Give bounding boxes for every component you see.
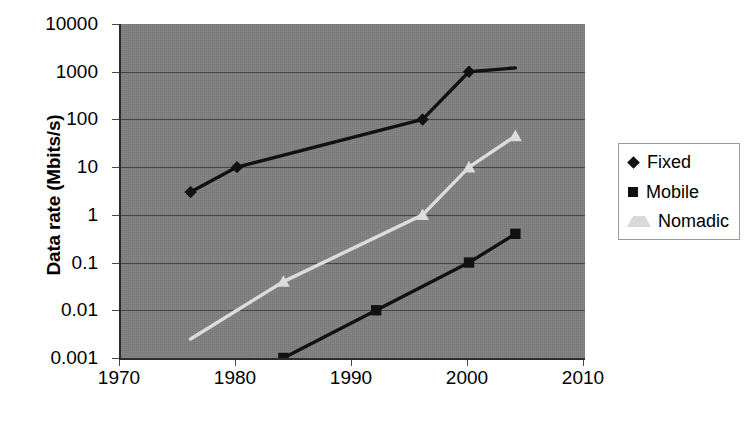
x-tick-mark	[583, 359, 584, 366]
y-tick-mark	[112, 72, 119, 73]
y-tick-mark	[112, 215, 119, 216]
legend-item-nomadic[interactable]: Nomadic	[627, 208, 729, 234]
triangle-marker-icon	[627, 216, 651, 227]
legend-item-label: Mobile	[646, 182, 699, 203]
series-line	[191, 68, 516, 192]
series-line	[283, 234, 515, 358]
y-tick-label: 0.1	[72, 252, 98, 274]
data-point-marker	[371, 305, 381, 315]
legend-item-mobile[interactable]: Mobile	[627, 179, 699, 205]
y-tick-label: 10000	[45, 13, 98, 35]
y-tick-mark	[112, 24, 119, 25]
y-tick-mark	[112, 310, 119, 311]
y-tick-mark	[112, 119, 119, 120]
data-point-marker	[510, 229, 520, 239]
x-tick-mark	[351, 359, 352, 366]
data-point-marker	[278, 353, 288, 360]
y-tick-label: 0.01	[61, 299, 98, 321]
x-tick-mark	[119, 359, 120, 366]
x-tick-label: 1990	[330, 367, 372, 389]
diamond-marker-icon	[627, 156, 640, 169]
legend-item-fixed[interactable]: Fixed	[627, 149, 691, 175]
square-marker-icon	[628, 187, 638, 197]
series-mobile	[278, 229, 520, 360]
series-fixed	[184, 66, 515, 199]
data-point-marker	[464, 257, 474, 267]
data-point-marker	[231, 161, 243, 173]
legend-item-label: Fixed	[647, 152, 691, 173]
x-tick-label: 2000	[446, 367, 488, 389]
y-tick-mark	[112, 358, 119, 359]
x-tick-mark	[235, 359, 236, 366]
legend-item-label: Nomadic	[658, 211, 729, 232]
x-tick-label: 1970	[98, 367, 140, 389]
data-point-marker	[184, 186, 196, 198]
y-tick-label: 10	[77, 156, 98, 178]
y-tick-label: 1000	[56, 61, 98, 83]
data-point-marker	[509, 130, 522, 142]
plot-area	[119, 24, 585, 360]
y-tick-mark	[112, 263, 119, 264]
x-tick-mark	[467, 359, 468, 366]
y-tick-label: 100	[66, 108, 98, 130]
gridline	[121, 358, 585, 359]
y-tick-label: 0.001	[50, 347, 98, 369]
y-tick-label: 1	[87, 204, 98, 226]
data-series-layer	[121, 24, 585, 358]
chart-figure: Data rate (Mbits/s) 1000010001001010.10.…	[0, 0, 755, 440]
legend: FixedMobileNomadic	[618, 143, 740, 240]
series-nomadic	[191, 130, 522, 339]
x-tick-label: 1980	[214, 367, 256, 389]
y-tick-mark	[112, 167, 119, 168]
x-tick-label: 2010	[562, 367, 604, 389]
